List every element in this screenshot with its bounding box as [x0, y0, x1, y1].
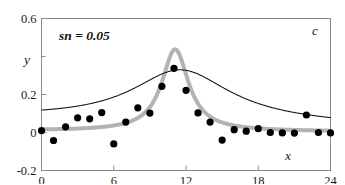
data-point	[267, 129, 274, 136]
data-point	[291, 129, 298, 136]
data-point	[110, 140, 117, 147]
chart-canvas: 06121824-0.200.20.6 y x sn = 0.05 c	[0, 0, 345, 184]
y-axis-label: y	[22, 52, 30, 67]
data-point	[279, 129, 286, 136]
data-point	[146, 110, 153, 117]
y-tick-label: -0.2	[17, 164, 37, 178]
data-point	[219, 137, 226, 144]
data-point	[182, 87, 189, 94]
y-tick-label: 0.6	[21, 12, 37, 26]
data-point	[62, 123, 69, 130]
x-tick-label: 0	[38, 174, 44, 185]
data-point	[38, 127, 45, 134]
data-point	[158, 83, 165, 90]
y-tick-label: 0	[30, 126, 36, 140]
data-point	[50, 137, 57, 144]
noise-level-annotation: sn = 0.05	[58, 28, 110, 43]
data-point	[303, 111, 310, 118]
y-tick-label: 0.2	[21, 88, 37, 102]
data-point	[327, 129, 334, 136]
panel-letter-label: c	[312, 23, 318, 38]
data-point	[86, 115, 93, 122]
data-point	[134, 104, 141, 111]
x-axis-label: x	[284, 148, 291, 163]
x-tick-label: 18	[252, 174, 265, 185]
data-point	[231, 126, 238, 133]
x-tick-label: 24	[324, 174, 337, 185]
data-point	[98, 109, 105, 116]
figure-background	[0, 0, 345, 184]
x-tick-label: 12	[180, 174, 193, 185]
data-point	[255, 125, 262, 132]
data-point	[194, 109, 201, 116]
data-point	[122, 118, 129, 125]
data-point	[243, 128, 250, 135]
data-point	[170, 65, 177, 72]
data-point	[74, 114, 81, 121]
data-point	[315, 129, 322, 136]
chart-figure: 06121824-0.200.20.6 y x sn = 0.05 c	[0, 0, 345, 184]
data-point	[206, 118, 213, 125]
x-tick-label: 6	[111, 174, 117, 185]
